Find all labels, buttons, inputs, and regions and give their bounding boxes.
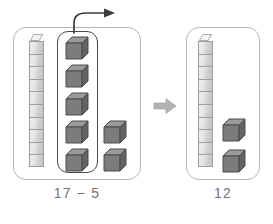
rod-units — [198, 41, 213, 167]
selected-unit-cube — [65, 36, 89, 60]
rod-unit — [198, 142, 213, 155]
rod-unit — [29, 154, 44, 167]
rod-top-face — [29, 34, 44, 41]
curved-arrow-right-icon — [68, 4, 118, 34]
unit-cube — [103, 120, 127, 144]
selected-unit-cube — [65, 64, 89, 88]
left-caption: 17 − 5 — [13, 185, 141, 201]
rod-unit — [198, 104, 213, 117]
figure-canvas: 17 − 5 12 — [0, 0, 273, 224]
block-arrow-right-icon — [153, 96, 177, 116]
unit-cube — [222, 118, 246, 142]
rod-unit — [198, 117, 213, 130]
rod-unit — [29, 142, 44, 155]
rod-unit — [198, 91, 213, 104]
rod-unit — [198, 154, 213, 167]
rod-unit — [29, 79, 44, 92]
rod-unit — [29, 104, 44, 117]
rod-unit — [29, 66, 44, 79]
rod-unit — [29, 91, 44, 104]
rod-units — [29, 41, 44, 167]
rod-unit — [29, 41, 44, 54]
rod-unit — [29, 54, 44, 67]
right-caption: 12 — [186, 185, 260, 201]
selected-unit-cube — [65, 92, 89, 116]
rod-unit — [198, 79, 213, 92]
unit-cube — [222, 149, 246, 173]
rod-unit — [198, 54, 213, 67]
rod-unit — [198, 41, 213, 54]
rod-top-face — [198, 34, 213, 41]
rod-unit — [29, 129, 44, 142]
rod-unit — [29, 117, 44, 130]
rod-unit — [198, 129, 213, 142]
selected-unit-cube — [65, 148, 89, 172]
selected-unit-cube — [65, 120, 89, 144]
rod-unit — [198, 66, 213, 79]
unit-cube — [103, 148, 127, 172]
